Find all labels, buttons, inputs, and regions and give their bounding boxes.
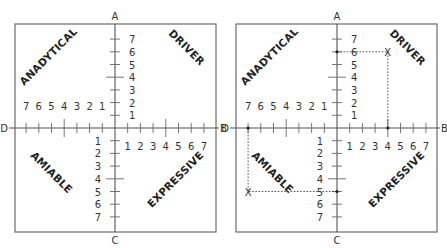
scale-b-7: 7 <box>423 141 429 152</box>
scale-b-3: 3 <box>372 141 378 152</box>
scale-a-2: 2 <box>351 98 357 109</box>
panel-blank: ACDB1111222233334444555566667777ANADYTIC… <box>0 11 227 246</box>
quadrant-label-amiable: AMIABLE <box>29 149 76 196</box>
quadrant-diagram: ACDB1111222233334444555566667777ANADYTIC… <box>0 0 447 248</box>
axis-label-b: B <box>441 123 447 134</box>
scale-c-7: 7 <box>95 212 101 223</box>
scale-b-5: 5 <box>175 141 181 152</box>
scale-b-2: 2 <box>359 141 365 152</box>
dashed-guide <box>337 52 388 128</box>
quadrant-label-driver: DRIVER <box>167 27 208 68</box>
scale-c-4: 4 <box>95 174 101 185</box>
scale-d-1: 1 <box>321 101 327 112</box>
scale-c-1: 1 <box>317 136 323 147</box>
axis-point-vertical <box>335 190 338 193</box>
plot-driver: X <box>335 47 391 130</box>
scale-a-3: 3 <box>351 85 357 96</box>
axis-point-horizontal <box>247 126 250 129</box>
scale-d-2: 2 <box>308 101 314 112</box>
scale-d-6: 6 <box>258 101 264 112</box>
axis-label-c: C <box>112 235 119 246</box>
scale-c-5: 5 <box>317 187 323 198</box>
scale-b-3: 3 <box>150 141 156 152</box>
axis-label-a: A <box>112 11 119 22</box>
scale-a-7: 7 <box>351 34 357 45</box>
scale-a-4: 4 <box>351 72 357 83</box>
scale-b-4: 4 <box>163 141 169 152</box>
scale-b-2: 2 <box>137 141 143 152</box>
scale-a-7: 7 <box>129 34 135 45</box>
axis-label-a: A <box>334 11 341 22</box>
quadrant-label-analytical: ANADYTICAL <box>17 25 79 87</box>
scale-b-7: 7 <box>201 141 207 152</box>
axis-point-horizontal <box>386 126 389 129</box>
scale-c-7: 7 <box>317 212 323 223</box>
scale-c-4: 4 <box>317 174 323 185</box>
scale-c-2: 2 <box>95 148 101 159</box>
scale-a-5: 5 <box>129 60 135 71</box>
plot-mark-x: X <box>245 187 252 198</box>
scale-a-5: 5 <box>351 60 357 71</box>
scale-d-7: 7 <box>245 101 251 112</box>
scale-c-2: 2 <box>317 148 323 159</box>
quadrant-label-expressive: EXPRESSIVE <box>145 149 206 210</box>
quadrant-label-analytical: ANADYTICAL <box>238 25 300 87</box>
scale-d-7: 7 <box>23 101 29 112</box>
scale-d-3: 3 <box>296 101 302 112</box>
scale-a-1: 1 <box>351 110 357 121</box>
scale-c-6: 6 <box>317 199 323 210</box>
scale-a-6: 6 <box>351 47 357 58</box>
axis-label-d: D <box>0 123 8 134</box>
scale-b-6: 6 <box>188 141 194 152</box>
quadrant-label-driver: DRIVER <box>388 27 429 68</box>
scale-a-6: 6 <box>129 47 135 58</box>
scale-c-5: 5 <box>95 187 101 198</box>
scale-d-1: 1 <box>99 101 105 112</box>
scale-a-2: 2 <box>129 98 135 109</box>
axis-label-c: C <box>334 235 341 246</box>
plot-mark-x: X <box>384 47 391 58</box>
scale-a-3: 3 <box>129 85 135 96</box>
panel-plotted: ACDB1111222233334444555566667777ANADYTIC… <box>221 11 447 246</box>
quadrant-label-expressive: EXPRESSIVE <box>366 149 427 210</box>
axis-label-d: D <box>221 123 229 134</box>
axis-point-vertical <box>335 50 338 53</box>
scale-d-4: 4 <box>61 101 67 112</box>
scale-c-1: 1 <box>95 136 101 147</box>
scale-d-3: 3 <box>74 101 80 112</box>
scale-d-6: 6 <box>36 101 42 112</box>
scale-c-3: 3 <box>95 161 101 172</box>
scale-b-5: 5 <box>397 141 403 152</box>
scale-a-1: 1 <box>129 110 135 121</box>
scale-b-1: 1 <box>125 141 131 152</box>
scale-b-1: 1 <box>347 141 353 152</box>
scale-d-2: 2 <box>86 101 92 112</box>
scale-d-5: 5 <box>270 101 276 112</box>
scale-c-6: 6 <box>95 199 101 210</box>
scale-d-4: 4 <box>283 101 289 112</box>
scale-c-3: 3 <box>317 161 323 172</box>
scale-d-5: 5 <box>48 101 54 112</box>
scale-a-4: 4 <box>129 72 135 83</box>
quadrant-label-amiable: AMIABLE <box>250 149 297 196</box>
scale-b-4: 4 <box>385 141 391 152</box>
